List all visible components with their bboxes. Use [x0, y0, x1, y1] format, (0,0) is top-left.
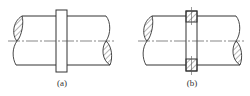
shaft-a-left-break-hatched — [14, 16, 23, 41]
caption-b: (b) — [182, 78, 202, 88]
panel-a — [8, 10, 116, 72]
panel-b — [138, 7, 246, 75]
shaft-b-left-break-lower — [143, 41, 147, 65]
shaft-b-right-break-hatched — [233, 41, 242, 65]
caption-a: (a) — [52, 78, 72, 88]
shaft-a-right-break-upper — [106, 16, 110, 41]
shaft-b-right-break-upper — [236, 16, 240, 41]
shaft-b-left-break-hatched — [144, 16, 153, 41]
shaft-a-left-break-lower — [13, 41, 17, 65]
shaft-a-right-break-hatched — [103, 41, 112, 65]
shaft-ring-diagram — [0, 0, 250, 96]
